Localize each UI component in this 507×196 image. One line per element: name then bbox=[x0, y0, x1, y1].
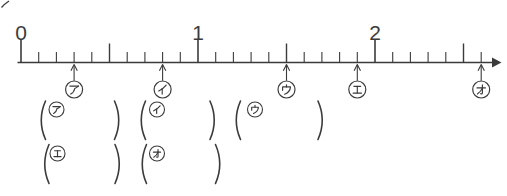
pointer-e bbox=[349, 65, 366, 98]
blank-tag-circle-u bbox=[248, 102, 263, 117]
open-paren bbox=[142, 145, 146, 184]
answer-blank-i bbox=[141, 101, 214, 140]
answer-blank-o bbox=[142, 145, 220, 184]
open-paren bbox=[45, 145, 49, 184]
axis-label-2: 2 bbox=[369, 21, 381, 44]
pointer-i bbox=[154, 65, 171, 98]
close-paren bbox=[210, 101, 214, 140]
open-paren bbox=[236, 101, 240, 140]
axis-arrow-icon bbox=[492, 58, 502, 68]
corner-stray-stroke bbox=[2, 1, 10, 8]
pointer-a bbox=[66, 65, 83, 98]
open-paren bbox=[41, 101, 45, 140]
worksheet-figure: 012 bbox=[0, 0, 507, 196]
axis-label-1: 1 bbox=[192, 21, 204, 44]
pointer-u bbox=[278, 65, 295, 98]
open-paren bbox=[141, 101, 145, 140]
close-paren bbox=[115, 145, 119, 184]
pointer-circle-u bbox=[278, 81, 295, 98]
answer-blank-u bbox=[236, 101, 322, 140]
answer-blank-e bbox=[45, 145, 120, 184]
close-paren bbox=[318, 101, 322, 140]
pointer-o bbox=[473, 65, 490, 98]
number-line-diagram: 012 bbox=[0, 0, 507, 196]
close-paren bbox=[216, 145, 220, 184]
answer-blank-a bbox=[41, 101, 119, 140]
number-line: 012 bbox=[15, 21, 501, 67]
axis-label-0: 0 bbox=[15, 21, 27, 44]
close-paren bbox=[115, 101, 119, 140]
